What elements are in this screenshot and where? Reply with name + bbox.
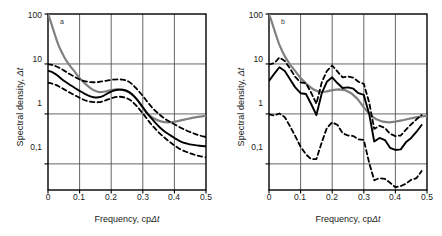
panel-a-plot: [0, 0, 221, 236]
panel-b-plot: [221, 0, 442, 236]
panel-b: Spectral density, Δt Frequency, cpΔt 100…: [221, 0, 442, 236]
spectral-density-figure: Spectral density, Δt Frequency, cpΔt 100…: [0, 0, 442, 236]
panel-a: Spectral density, Δt Frequency, cpΔt 100…: [0, 0, 221, 236]
